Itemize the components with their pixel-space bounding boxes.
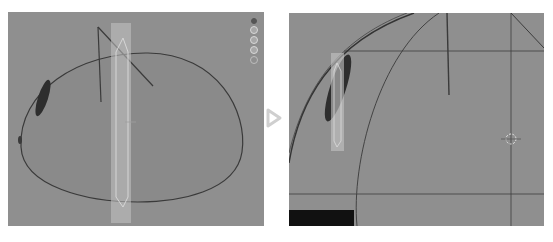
camera-dot-icon[interactable]	[251, 18, 257, 24]
view-button-icon[interactable]	[250, 26, 258, 34]
view-button-icon[interactable]	[250, 56, 258, 64]
mesh-mark	[18, 136, 22, 144]
wire-line-diagonal	[511, 13, 544, 48]
dome-curve-outer-2	[289, 13, 407, 153]
view-button-icon[interactable]	[250, 36, 258, 44]
selection-column[interactable]	[331, 53, 344, 151]
black-overlay-bar	[289, 210, 354, 226]
viewport-after[interactable]	[289, 13, 544, 226]
wire-line-vertical	[447, 13, 449, 95]
scene-after	[289, 13, 544, 226]
viewport-before[interactable]	[8, 12, 264, 226]
dome-curve-outer	[289, 13, 414, 163]
dome-mesh	[21, 53, 243, 202]
view-button-icon[interactable]	[250, 46, 258, 54]
arrow-right-icon	[265, 107, 283, 129]
view-gizmo	[248, 18, 260, 66]
scene-before	[8, 12, 264, 226]
